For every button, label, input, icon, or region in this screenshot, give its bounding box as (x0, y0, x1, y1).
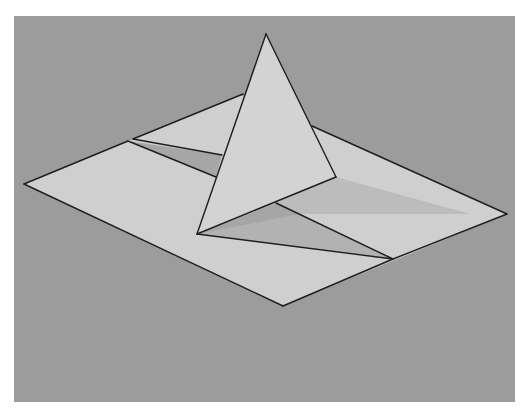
geometry-diagram (0, 0, 532, 416)
